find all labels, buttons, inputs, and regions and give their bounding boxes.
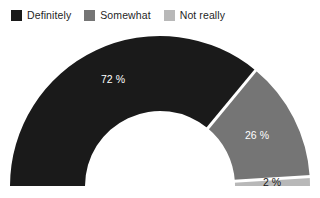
slice-data-label-somewhat: 26 % [245,129,269,141]
pie-slice-definitely[interactable] [10,36,256,186]
slice-data-label-definitely: 72 % [101,73,125,85]
chart-container: Definitely Somewhat Not really 72 %26 %2… [0,0,320,198]
half-donut-svg: 72 %26 %2 % [0,0,320,198]
half-donut-plot-area: 72 %26 %2 % [0,0,320,198]
slice-data-label-not-really: 2 % [263,176,281,188]
